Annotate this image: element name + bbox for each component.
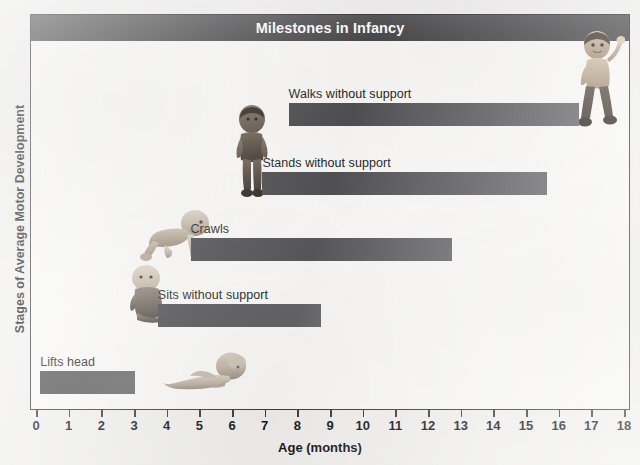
x-axis-title: Age (months) — [0, 440, 640, 455]
milestone-label: Stands without support — [262, 156, 390, 170]
x-axis-tick-label: 2 — [98, 418, 105, 433]
milestone-bar — [158, 304, 321, 327]
x-axis-tick — [134, 410, 136, 417]
milestone-bar — [262, 172, 546, 195]
x-axis-tick — [265, 410, 267, 417]
milestone-label: Crawls — [191, 222, 230, 236]
x-axis-tick — [101, 410, 103, 417]
x-axis-tick-label: 15 — [519, 418, 533, 433]
x-axis-tick-label: 0 — [32, 418, 39, 433]
x-axis-tick-label: 4 — [163, 418, 170, 433]
x-axis-tick-label: 17 — [584, 418, 598, 433]
x-axis-tick-label: 10 — [355, 418, 369, 433]
infant-lying-lifting-head — [159, 350, 251, 396]
x-axis-tick — [36, 410, 38, 417]
milestone-label: Lifts head — [40, 355, 95, 369]
x-axis-tick-label: 14 — [486, 418, 500, 433]
x-axis-tick — [297, 410, 299, 417]
x-axis-tick-label: 6 — [228, 418, 235, 433]
milestone-bar — [40, 371, 135, 394]
x-axis-tick-label: 16 — [551, 418, 565, 433]
x-axis-tick — [199, 410, 201, 417]
milestone-bar — [289, 103, 580, 126]
x-axis-tick — [428, 410, 430, 417]
x-axis-tick — [167, 410, 169, 417]
x-axis-tick — [395, 410, 397, 417]
x-axis-tick — [493, 410, 495, 417]
x-axis-tick — [559, 410, 561, 417]
x-axis: 0123456789101112131415161718 — [30, 410, 630, 411]
plot-area: Lifts headSits without supportCrawlsStan… — [31, 41, 629, 409]
y-axis-title: Stages of Average Motor Development — [13, 59, 27, 379]
milestone-bar — [191, 238, 452, 261]
x-axis-tick-label: 13 — [453, 418, 467, 433]
x-axis-tick — [363, 410, 365, 417]
x-axis-tick — [69, 410, 71, 417]
chart-title-banner: Milestones in Infancy — [31, 15, 629, 41]
milestone-label: Walks without support — [289, 87, 412, 101]
x-axis-tick — [526, 410, 528, 417]
x-axis-tick-label: 7 — [261, 418, 268, 433]
x-axis-tick-label: 9 — [326, 418, 333, 433]
x-axis-tick-label: 11 — [388, 418, 402, 433]
x-axis-tick — [232, 410, 234, 417]
plot-frame: Milestones in Infancy — [30, 14, 630, 410]
x-axis-tick — [461, 410, 463, 417]
milestones-chart-figure: Stages of Average Motor Development Mile… — [0, 0, 640, 465]
x-axis-tick-label: 18 — [617, 418, 631, 433]
x-axis-tick-label: 8 — [294, 418, 301, 433]
x-axis-tick-label: 12 — [421, 418, 435, 433]
x-axis-tick — [624, 410, 626, 417]
milestone-label: Sits without support — [158, 288, 268, 302]
x-axis-tick — [591, 410, 593, 417]
x-axis-tick-label: 5 — [196, 418, 203, 433]
x-axis-tick-label: 1 — [65, 418, 72, 433]
x-axis-tick-label: 3 — [130, 418, 137, 433]
x-axis-tick — [330, 410, 332, 417]
